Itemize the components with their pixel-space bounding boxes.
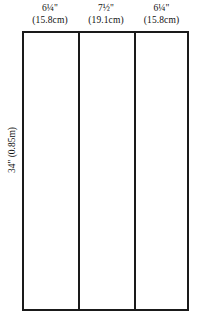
panel-divider-2 bbox=[134, 31, 136, 311]
panel-outline-rectangle bbox=[22, 31, 189, 311]
panel-3-metric-value: (15.8cm) bbox=[134, 14, 189, 26]
panel-3-dimension-label: 6¼" (15.8cm) bbox=[134, 2, 189, 26]
panel-2-dimension-label: 7½" (19.1cm) bbox=[78, 2, 134, 26]
panel-diagram: 6¼" (15.8cm) 7½" (19.1cm) 6¼" (15.8cm) 3… bbox=[0, 0, 203, 322]
panel-2-imperial-value: 7½" bbox=[78, 2, 134, 14]
panel-2-metric-value: (19.1cm) bbox=[78, 14, 134, 26]
top-dimension-labels: 6¼" (15.8cm) 7½" (19.1cm) 6¼" (15.8cm) bbox=[22, 2, 189, 30]
panel-1-imperial-value: 6¼" bbox=[22, 2, 78, 14]
height-dimension-label: 34" (0.85m) bbox=[6, 114, 18, 186]
panel-3-imperial-value: 6¼" bbox=[134, 2, 189, 14]
panel-divider-1 bbox=[78, 31, 80, 311]
panel-1-dimension-label: 6¼" (15.8cm) bbox=[22, 2, 78, 26]
panel-1-metric-value: (15.8cm) bbox=[22, 14, 78, 26]
